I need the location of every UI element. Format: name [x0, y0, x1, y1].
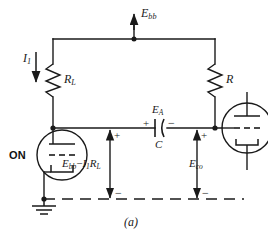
tube-right-cathode	[236, 139, 258, 145]
label-C-base: C	[155, 138, 162, 150]
label-tube-state-on: ON	[9, 150, 26, 161]
node-dot-right-main	[212, 125, 217, 130]
capacitor-plate-negative	[162, 119, 164, 137]
circuit-diagram-figure: Ebb I1 RL R EA C + − + − + − Ebb−I1RL Ec…	[0, 0, 268, 244]
label-pv-E: E	[62, 157, 69, 169]
node-dot-supply	[132, 37, 137, 42]
label-cutoff-voltage-Eco: Eco	[189, 158, 203, 170]
label-Eco-base: E	[189, 157, 196, 169]
vacuum-tube-right-symbol	[222, 92, 268, 170]
label-resistor-RL: RL	[64, 73, 76, 87]
label-current-I1: I1	[23, 52, 31, 66]
ground-symbol	[32, 199, 56, 214]
figure-caption: (a)	[124, 216, 138, 228]
polarity-capacitor-plus: +	[143, 118, 149, 129]
polarity-capacitor-minus: −	[168, 117, 175, 129]
label-supply-voltage: Ebb	[141, 7, 157, 21]
vacuum-tube-left-symbol	[37, 128, 87, 180]
label-supply-sub: bb	[148, 12, 156, 21]
label-pv-R: R	[90, 157, 97, 169]
circuit-schematic-canvas	[0, 0, 268, 244]
polarity-plate-voltage-minus: −	[115, 187, 122, 199]
label-EA-base: E	[152, 103, 159, 115]
resistor-R-zigzag	[208, 64, 222, 97]
label-current-sub: 1	[27, 57, 31, 66]
label-pv-R-sub: L	[97, 162, 101, 171]
label-pv-minus: −	[76, 157, 82, 169]
label-R-base: R	[226, 72, 233, 86]
polarity-cutoff-voltage-plus: +	[201, 130, 207, 141]
polarity-plate-voltage-plus: +	[114, 130, 120, 141]
label-resistor-R: R	[226, 73, 233, 85]
label-plate-voltage-expression: Ebb−I1RL	[62, 158, 101, 170]
label-capacitor-voltage-EA: EA	[152, 104, 163, 116]
resistor-RL-zigzag	[46, 64, 60, 97]
polarity-cutoff-voltage-minus: −	[202, 187, 209, 199]
label-EA-sub: A	[159, 108, 164, 117]
label-RL-sub: L	[71, 78, 76, 87]
label-capacitor-C: C	[155, 139, 162, 150]
label-Eco-sub: co	[196, 162, 203, 171]
